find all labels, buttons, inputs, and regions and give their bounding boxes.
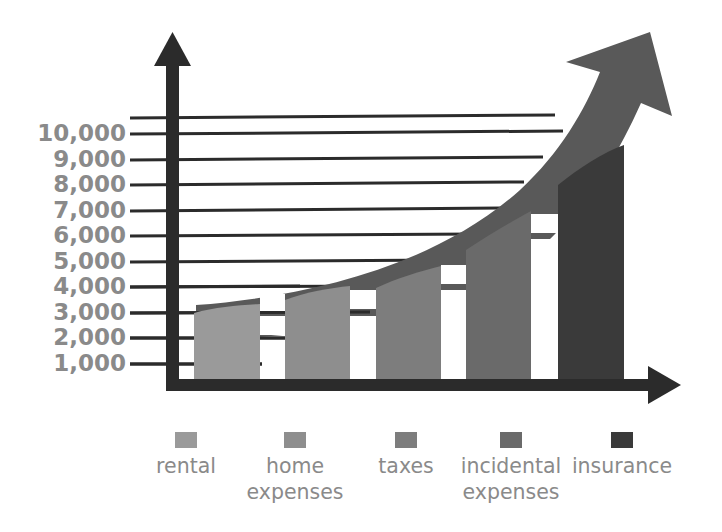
bar-home-expenses	[285, 286, 350, 385]
notch	[260, 294, 285, 311]
legend-label: rental	[156, 454, 216, 478]
notch	[350, 290, 376, 309]
y-tick-label: 2,000	[53, 324, 126, 350]
notch	[531, 316, 558, 335]
y-tick-label: 8,000	[53, 171, 126, 197]
legend-item-taxes[interactable]: taxes	[378, 432, 433, 478]
bar-insurance	[558, 145, 624, 385]
gridline-8	[130, 182, 524, 185]
notch	[260, 316, 285, 335]
notch	[624, 162, 649, 181]
gridline-6	[130, 234, 477, 236]
notch	[441, 290, 466, 309]
notch	[624, 316, 649, 335]
notch	[441, 316, 466, 335]
gridline-overlay-4	[130, 286, 300, 287]
notch	[624, 341, 649, 360]
legend-swatch-icon	[395, 432, 417, 448]
legend-item-rental[interactable]: rental	[156, 432, 216, 478]
notch	[531, 265, 558, 284]
bar-rental	[194, 304, 260, 385]
legend-swatch-icon	[175, 432, 197, 448]
notch	[531, 341, 558, 360]
y-tick-label: 4,000	[53, 273, 126, 299]
y-axis-line	[166, 56, 179, 390]
y-axis-tick-labels: 10,000 9,000 8,000 7,000 6,000 5,000 4,0…	[37, 120, 126, 376]
legend-swatch-icon	[500, 432, 522, 448]
legend-label: taxes	[378, 454, 433, 478]
expense-growth-chart: 10,000 9,000 8,000 7,000 6,000 5,000 4,0…	[0, 0, 722, 532]
legend-label-line2: expenses	[463, 480, 560, 504]
notch	[531, 239, 558, 258]
notch	[624, 265, 649, 284]
legend-item-home-expenses[interactable]: home expenses	[247, 432, 344, 504]
legend-item-incidental-expenses[interactable]: incidental expenses	[461, 432, 562, 504]
legend-label-line2: expenses	[247, 480, 344, 504]
notch	[350, 341, 376, 360]
legend-label: home	[266, 454, 324, 478]
legend-label: insurance	[572, 454, 672, 478]
y-tick-label: 1,000	[53, 350, 126, 376]
x-axis-line	[166, 379, 652, 391]
notch	[624, 214, 649, 233]
y-tick-label: 5,000	[53, 248, 126, 274]
y-tick-label: 6,000	[53, 222, 126, 248]
x-axis-arrowhead-icon	[648, 366, 681, 404]
gridline-10	[130, 131, 563, 134]
notch	[441, 341, 466, 360]
bar-taxes	[376, 266, 441, 385]
legend: rental home expenses taxes incidental ex…	[156, 432, 672, 504]
gridline-11	[130, 115, 555, 118]
gridline-7	[130, 208, 502, 211]
notch	[441, 265, 466, 284]
y-tick-label: 9,000	[53, 146, 126, 172]
notch	[531, 290, 558, 309]
gridline-9	[130, 157, 543, 160]
legend-item-insurance[interactable]: insurance	[572, 432, 672, 478]
legend-swatch-icon	[284, 432, 306, 448]
notch	[624, 239, 649, 258]
legend-label: incidental	[461, 454, 562, 478]
notch	[531, 214, 558, 233]
y-tick-label: 10,000	[37, 120, 126, 146]
legend-swatch-icon	[611, 432, 633, 448]
notch	[624, 290, 649, 309]
notch	[260, 341, 285, 360]
y-tick-label: 3,000	[53, 299, 126, 325]
notch	[624, 188, 649, 207]
y-axis-arrowhead-icon	[154, 32, 191, 66]
chart-canvas: 10,000 9,000 8,000 7,000 6,000 5,000 4,0…	[0, 0, 722, 532]
notch	[350, 316, 376, 335]
y-tick-label: 7,000	[53, 197, 126, 223]
